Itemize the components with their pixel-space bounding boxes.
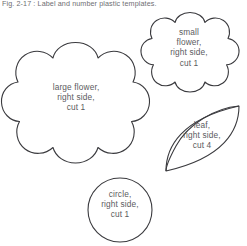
small-flower-label: small flower, right side, cut 1: [152, 27, 226, 68]
leaf-label: leaf, right side, cut 4: [167, 120, 237, 151]
circle-label: circle, right side, cut 1: [88, 189, 152, 220]
large-flower-label: large flower, right side, cut 1: [34, 82, 118, 113]
figure-page: Fig. 2-17 : Label and number plastic tem…: [0, 0, 247, 246]
